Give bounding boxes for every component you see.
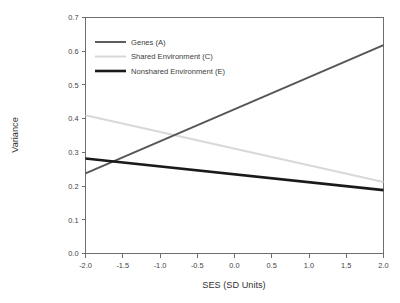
x-tick-label: -1.5 [116, 261, 129, 270]
x-tick-label: 1.5 [341, 261, 351, 270]
x-axis-ticks: -2.0-1.5-1.0-0.50.00.51.01.52.0 [79, 254, 389, 270]
x-tick-label: -2.0 [79, 261, 92, 270]
variance-by-ses-line-chart: 0.00.10.20.30.40.50.60.7 -2.0-1.5-1.0-0.… [0, 0, 400, 303]
x-tick-label: -1.0 [154, 261, 167, 270]
x-tick-label: -0.5 [191, 261, 204, 270]
x-tick-label: 2.0 [378, 261, 388, 270]
y-tick-label: 0.1 [68, 216, 78, 225]
x-axis-title: SES (SD Units) [202, 280, 265, 290]
chart-legend: Genes (A)Shared Environment (C)Nonshared… [95, 38, 226, 76]
figure-container: 0.00.10.20.30.40.50.60.7 -2.0-1.5-1.0-0.… [0, 0, 400, 303]
x-tick-label: 1.0 [304, 261, 314, 270]
y-tick-label: 0.4 [68, 114, 78, 123]
y-tick-label: 0.6 [68, 47, 78, 56]
legend-label: Genes (A) [131, 38, 166, 47]
y-tick-label: 0.7 [68, 13, 78, 22]
series-line-shared-environment [86, 115, 384, 182]
y-tick-label: 0.0 [68, 249, 78, 258]
y-axis-title: Variance [10, 117, 20, 153]
y-tick-label: 0.2 [68, 182, 78, 191]
y-axis-ticks: 0.00.10.20.30.40.50.60.7 [68, 13, 85, 258]
y-tick-label: 0.5 [68, 81, 78, 90]
x-tick-label: 0.0 [229, 261, 239, 270]
series-line-genes [86, 45, 384, 173]
series-line-nonshared-environment [86, 158, 384, 190]
legend-label: Nonshared Environment (E) [131, 67, 226, 76]
x-tick-label: 0.5 [267, 261, 277, 270]
legend-label: Shared Environment (C) [131, 52, 213, 61]
y-tick-label: 0.3 [68, 148, 78, 157]
